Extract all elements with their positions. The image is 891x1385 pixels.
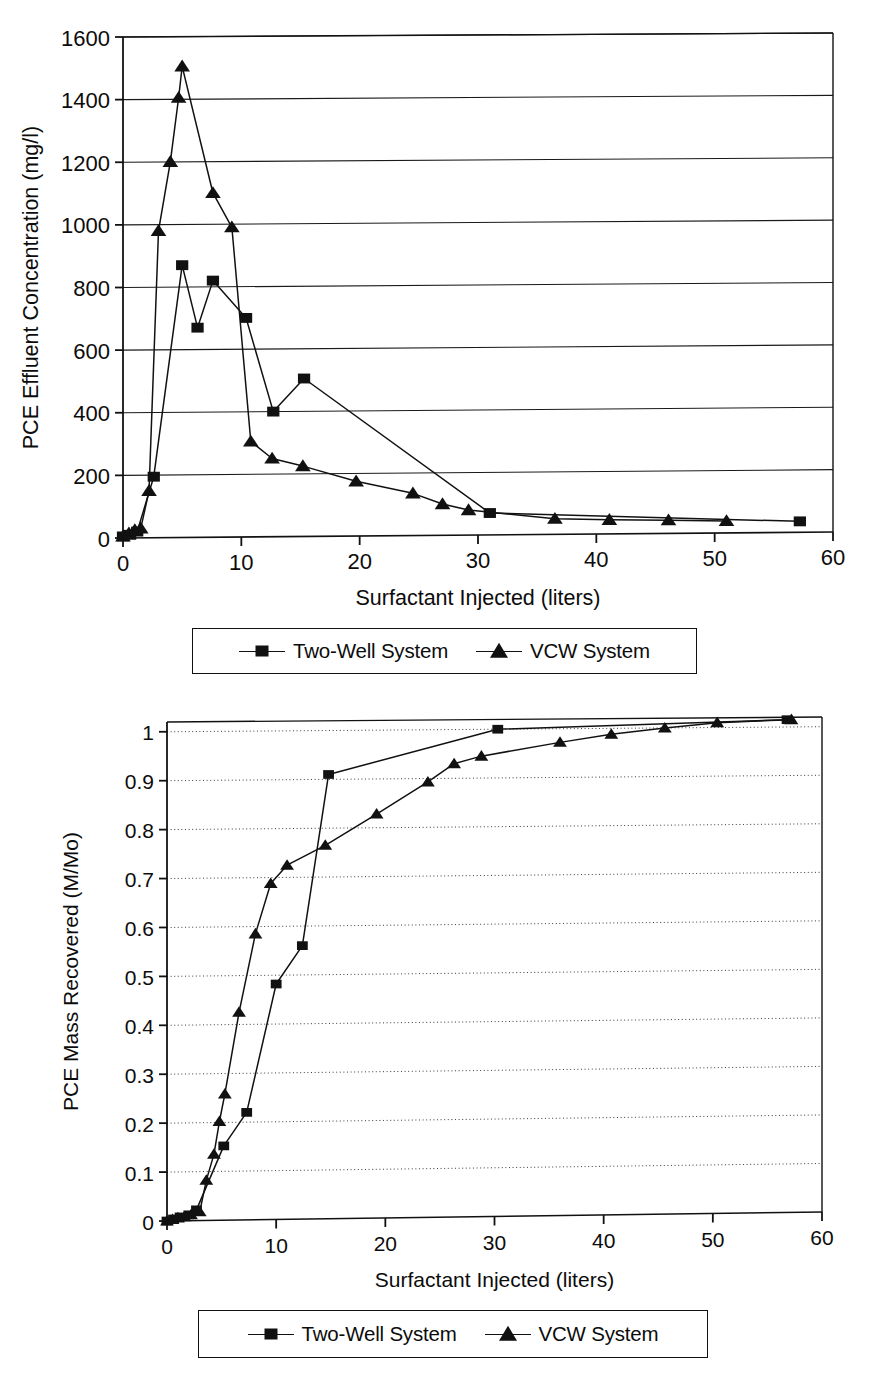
legend-entry-vcw[interactable]: VCW System xyxy=(485,1322,659,1346)
y-tick-label: 1 xyxy=(142,721,154,744)
legend-entry-two-well[interactable]: Two-Well System xyxy=(248,1322,457,1346)
x-axis-title: Surfactant Injected (liters) xyxy=(375,1268,614,1291)
x-tick-label: 20 xyxy=(374,1232,397,1255)
legend-entry-two-well[interactable]: Two-Well System xyxy=(239,639,448,663)
data-point-square xyxy=(240,313,252,323)
data-point-square xyxy=(492,725,503,734)
gridline xyxy=(167,1018,822,1025)
triangle-marker-icon xyxy=(485,1325,531,1343)
gridline xyxy=(123,95,833,99)
y-tick-label: 0.3 xyxy=(125,1064,154,1087)
chart-canvas-effluent: 0200400600800100012001400160001020304050… xyxy=(0,0,891,615)
x-tick-label: 40 xyxy=(584,547,608,572)
gridline xyxy=(167,775,822,780)
gridline xyxy=(123,470,833,476)
data-point-triangle xyxy=(213,1115,227,1126)
y-tick-label: 800 xyxy=(73,276,110,301)
x-tick-label: 60 xyxy=(810,1226,833,1249)
data-point-triangle xyxy=(163,155,179,167)
data-point-triangle xyxy=(174,60,190,72)
series-two-well-system xyxy=(162,715,793,1225)
gridline xyxy=(167,1163,822,1172)
y-tick-label: 600 xyxy=(73,339,110,364)
legend-label-vcw: VCW System xyxy=(531,1322,659,1346)
series-two-well-system xyxy=(117,260,806,541)
data-point-triangle xyxy=(243,435,259,447)
x-tick-label: 0 xyxy=(161,1235,173,1258)
y-tick-label: 1000 xyxy=(61,213,110,238)
data-point-triangle xyxy=(280,859,294,870)
legend-label-vcw: VCW System xyxy=(522,639,650,663)
data-point-square xyxy=(207,276,219,286)
data-point-triangle xyxy=(421,776,435,787)
data-point-triangle xyxy=(249,928,263,939)
data-point-triangle xyxy=(435,497,451,509)
chart-canvas-mass-recovered: 00.10.20.30.40.50.60.70.80.9101020304050… xyxy=(0,700,891,1300)
y-tick-label: 0.8 xyxy=(125,819,154,842)
gridline xyxy=(167,824,822,830)
square-marker-icon xyxy=(239,642,285,660)
y-axis-title: PCE Mass Recovered (M/Mo) xyxy=(59,832,82,1111)
y-tick-label: 0.4 xyxy=(125,1015,155,1038)
data-point-square xyxy=(218,1142,229,1151)
series-line xyxy=(167,720,787,1221)
chart-pce-mass-recovered: 00.10.20.30.40.50.60.70.80.9101020304050… xyxy=(0,700,891,1300)
triangle-marker-icon xyxy=(476,642,522,660)
square-marker-icon xyxy=(248,1325,294,1343)
y-tick-label: 0.1 xyxy=(125,1162,154,1185)
y-tick-label: 0.6 xyxy=(125,917,154,940)
y-tick-label: 0.9 xyxy=(125,770,154,793)
data-point-triangle xyxy=(224,220,240,232)
gridline xyxy=(167,921,822,928)
data-point-triangle xyxy=(141,484,157,496)
x-tick-label: 60 xyxy=(821,545,845,570)
gridline xyxy=(167,1066,822,1074)
gridline xyxy=(123,345,833,350)
data-point-triangle xyxy=(171,91,187,103)
series-vcw-system xyxy=(160,714,798,1226)
legend-label-two-well: Two-Well System xyxy=(294,1322,457,1346)
data-point-triangle xyxy=(602,513,618,525)
data-point-square xyxy=(794,516,806,526)
y-tick-label: 400 xyxy=(73,401,110,426)
series-vcw-system xyxy=(115,60,734,542)
data-point-square xyxy=(323,770,334,779)
series-line xyxy=(167,720,791,1221)
y-axis-ticks: 02004006008001000120014001600 xyxy=(61,26,123,552)
data-point-square xyxy=(267,407,279,417)
x-tick-label: 0 xyxy=(117,551,129,576)
data-point-square xyxy=(176,260,188,270)
data-point-square xyxy=(241,1108,252,1117)
data-point-triangle xyxy=(205,186,221,198)
legend-effluent: Two-Well System VCW System xyxy=(192,628,697,674)
y-tick-label: 1400 xyxy=(61,88,110,113)
legend-mass-recovered: Two-Well System VCW System xyxy=(198,1310,708,1358)
x-tick-label: 30 xyxy=(483,1231,506,1254)
figure-pce-effluent-concentration: 0200400600800100012001400160001020304050… xyxy=(0,0,891,712)
data-point-triangle xyxy=(151,224,167,236)
data-point-triangle xyxy=(232,1006,246,1017)
legend-entry-vcw[interactable]: VCW System xyxy=(476,639,650,663)
y-tick-label: 0.5 xyxy=(125,966,154,989)
y-tick-label: 0 xyxy=(98,527,110,552)
y-tick-label: 1200 xyxy=(61,151,110,176)
gridlines xyxy=(167,727,822,1172)
gridlines xyxy=(123,33,833,475)
x-axis-title: Surfactant Injected (liters) xyxy=(356,586,601,610)
plot-top-border xyxy=(123,33,833,37)
gridline xyxy=(167,969,822,976)
gridline xyxy=(123,407,833,413)
data-point-square xyxy=(191,323,203,333)
gridline xyxy=(167,1115,822,1123)
y-axis-title: PCE Effluent Concentration (mg/l) xyxy=(19,126,43,449)
series-line xyxy=(123,265,800,536)
data-point-square xyxy=(271,980,282,989)
x-tick-label: 10 xyxy=(264,1234,287,1257)
x-tick-label: 50 xyxy=(702,546,726,571)
data-point-triangle xyxy=(370,808,384,819)
x-tick-label: 40 xyxy=(592,1229,615,1252)
x-tick-label: 10 xyxy=(229,550,253,575)
y-tick-label: 0.2 xyxy=(125,1113,154,1136)
figure-pce-mass-recovered: 00.10.20.30.40.50.60.70.80.9101020304050… xyxy=(0,700,891,1385)
data-point-square xyxy=(298,374,310,384)
